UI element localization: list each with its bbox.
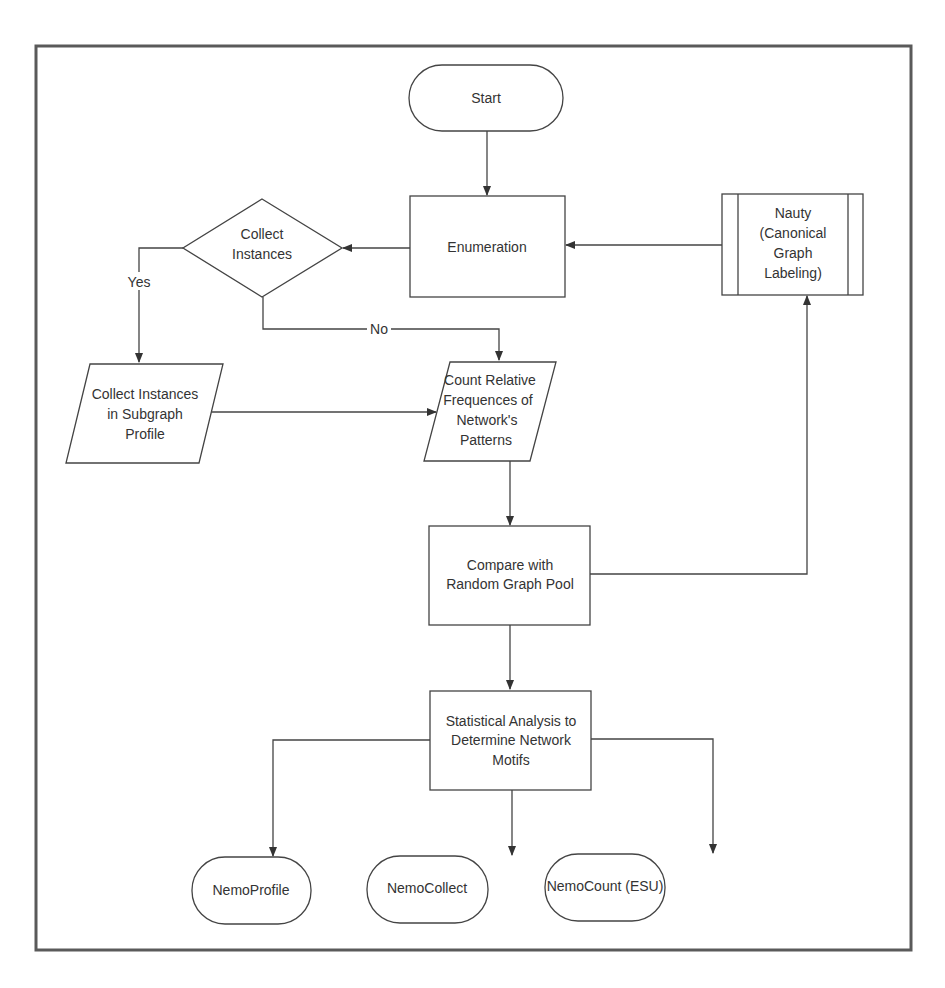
diagram-frame [36, 46, 911, 950]
node-compare-line-2: Random Graph Pool [446, 576, 574, 592]
node-stat-line-1: Statistical Analysis to [446, 713, 577, 729]
node-compare: Compare with Random Graph Pool [429, 526, 590, 625]
node-count-line-3: Network's [456, 412, 517, 428]
node-nemo-profile: NemoProfile [192, 857, 311, 924]
node-nemo-collect: NemoCollect [367, 856, 488, 923]
node-nauty-line-1: Nauty [775, 205, 812, 221]
node-stat-line-3: Motifs [492, 752, 529, 768]
node-count-line-1: Count Relative [444, 372, 536, 388]
node-nauty-line-3: Graph [774, 245, 813, 261]
edge-statistical-nemoprofile [273, 740, 430, 856]
node-statistical: Statistical Analysis to Determine Networ… [430, 691, 591, 790]
node-collect-line-2: in Subgraph [107, 406, 183, 422]
node-nemocount-label: NemoCount (ESU) [547, 878, 664, 894]
node-nauty-line-2: (Canonical [760, 225, 827, 241]
node-start: Start [409, 65, 563, 131]
edge-statistical-nemocount [591, 739, 713, 853]
node-stat-line-2: Determine Network [451, 732, 572, 748]
node-nauty: Nauty (Canonical Graph Labeling) [722, 194, 863, 295]
node-enumeration-label: Enumeration [447, 239, 526, 255]
edge-label-yes: Yes [128, 274, 151, 290]
edge-label-no: No [370, 321, 388, 337]
node-count-relative: Count Relative Frequences of Network's P… [424, 362, 556, 461]
flowchart-canvas: Yes No Start Enumeration Nauty (Canonica… [0, 0, 945, 988]
edge-compare-nauty [590, 296, 807, 574]
node-count-line-4: Patterns [460, 432, 512, 448]
node-nemoprofile-label: NemoProfile [212, 882, 289, 898]
node-nauty-line-4: Labeling) [764, 265, 822, 281]
node-start-label: Start [471, 90, 501, 106]
node-nemo-count: NemoCount (ESU) [545, 854, 665, 921]
node-count-line-2: Frequences of [443, 392, 533, 408]
edge-decision-collect-yes [139, 248, 183, 362]
node-enumeration: Enumeration [410, 196, 565, 297]
node-decision-line-1: Collect [241, 226, 284, 242]
node-compare-line-1: Compare with [467, 557, 553, 573]
node-collect-line-3: Profile [125, 426, 165, 442]
node-decision-line-2: Instances [232, 246, 292, 262]
node-nemocollect-label: NemoCollect [387, 880, 467, 896]
node-collect-instances: Collect Instances in Subgraph Profile [66, 364, 223, 463]
node-collect-decision: Collect Instances [183, 199, 342, 297]
node-collect-line-1: Collect Instances [92, 386, 199, 402]
